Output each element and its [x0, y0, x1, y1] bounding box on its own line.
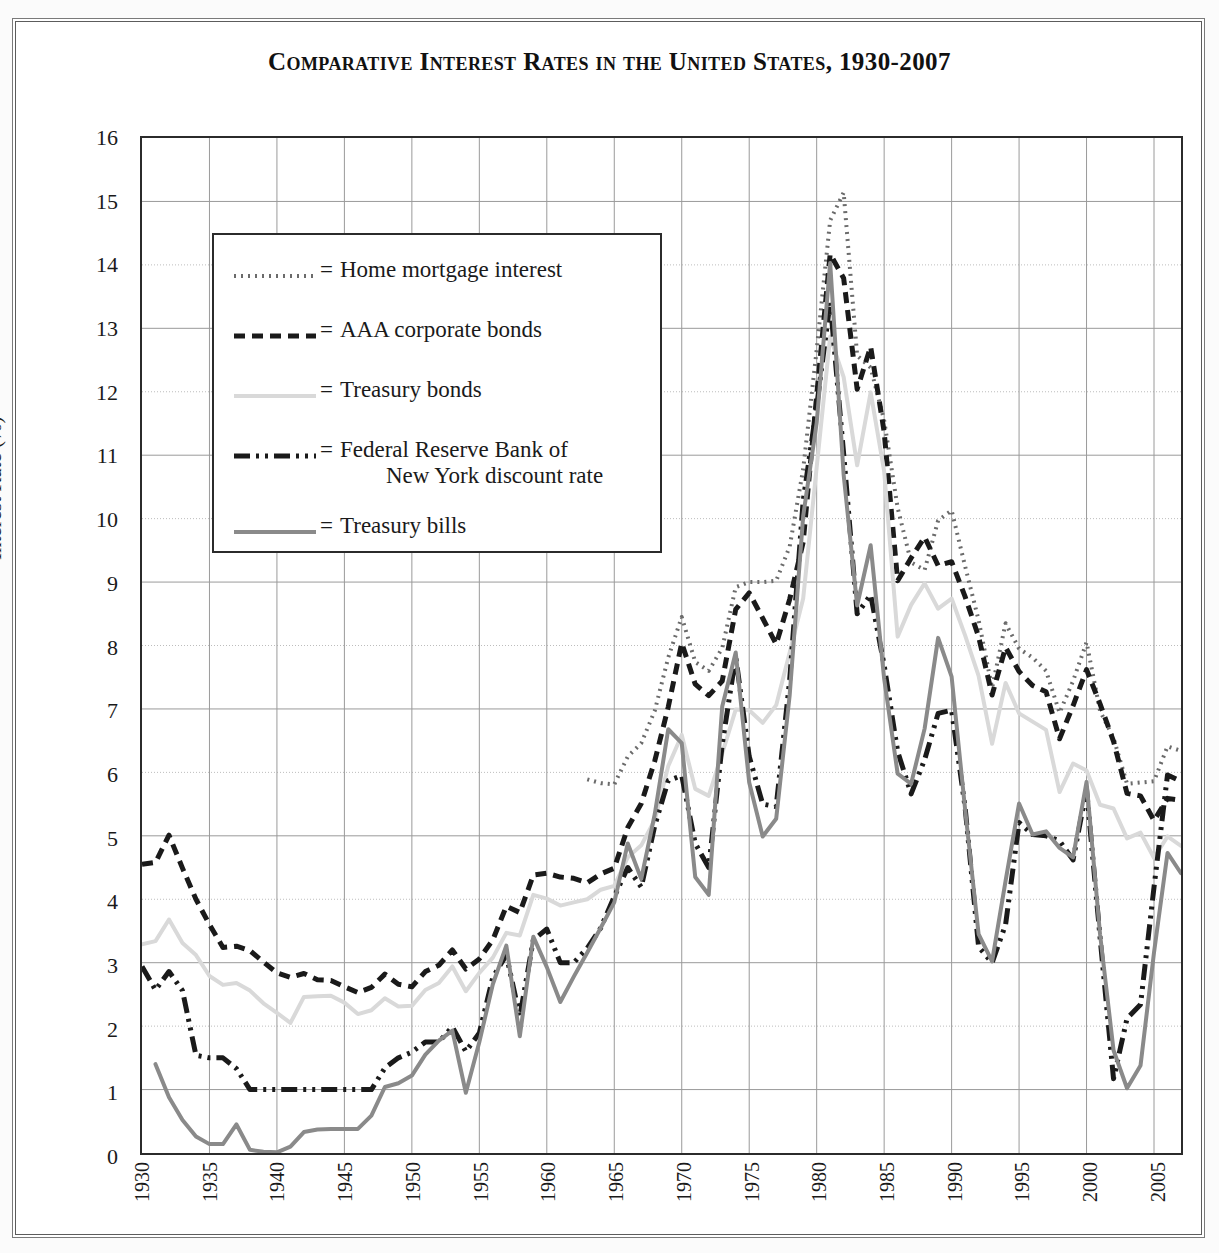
y-tick-label: 11	[97, 445, 118, 467]
legend-label: AAA corporate bonds	[340, 317, 542, 343]
chart-page: Comparative Interest Rates in the United…	[0, 0, 1219, 1253]
legend-label: Treasury bills	[340, 513, 466, 539]
y-tick-label: 13	[96, 318, 118, 340]
legend-label: Home mortgage interest	[340, 257, 562, 283]
x-tick-label: 1950	[403, 1162, 423, 1202]
x-tick-label: 1935	[200, 1162, 220, 1202]
legend-swatch-icon	[232, 266, 318, 286]
x-tick-label: 1975	[742, 1162, 762, 1202]
legend-item-1[interactable]: =AAA corporate bonds	[214, 317, 660, 346]
chart-title: Comparative Interest Rates in the United…	[0, 48, 1219, 76]
legend-equals-sign: =	[320, 513, 333, 539]
legend-swatch-icon	[232, 386, 318, 406]
y-tick-label: 8	[107, 637, 118, 659]
y-tick-label: 7	[107, 700, 118, 722]
legend-swatch-icon	[232, 522, 318, 542]
y-tick-label: 16	[96, 127, 118, 149]
x-axis-tick-labels: 1930193519401945195019551960196519701975…	[140, 1162, 1183, 1252]
legend-label: Treasury bonds	[340, 377, 482, 403]
legend-swatch-icon	[232, 326, 318, 346]
x-tick-label: 1985	[877, 1162, 897, 1202]
y-tick-label: 0	[107, 1146, 118, 1168]
legend-item-4[interactable]: =Treasury bills	[214, 513, 660, 542]
legend-label: Federal Reserve Bank ofNew York discount…	[340, 437, 603, 490]
legend-item-2[interactable]: =Treasury bonds	[214, 377, 660, 406]
y-tick-label: 9	[107, 573, 118, 595]
x-tick-label: 1940	[267, 1162, 287, 1202]
y-axis-tick-labels: 012345678910111213141516	[0, 136, 132, 1155]
y-tick-label: 12	[96, 382, 118, 404]
y-tick-label: 2	[107, 1019, 118, 1041]
x-tick-label: 1960	[538, 1162, 558, 1202]
x-tick-label: 2005	[1148, 1162, 1168, 1202]
y-tick-label: 15	[96, 191, 118, 213]
legend-swatch-icon	[232, 446, 318, 466]
y-tick-label: 3	[107, 955, 118, 977]
legend-item-3[interactable]: =Federal Reserve Bank ofNew York discoun…	[214, 437, 660, 490]
y-tick-label: 10	[96, 509, 118, 531]
chart-legend: =Home mortgage interest=AAA corporate bo…	[212, 233, 662, 553]
x-tick-label: 1970	[674, 1162, 694, 1202]
y-tick-label: 1	[107, 1082, 118, 1104]
x-tick-label: 1980	[809, 1162, 829, 1202]
x-tick-label: 1955	[471, 1162, 491, 1202]
legend-equals-sign: =	[320, 377, 333, 403]
x-tick-label: 2000	[1080, 1162, 1100, 1202]
y-tick-label: 4	[107, 891, 118, 913]
legend-equals-sign: =	[320, 437, 333, 463]
y-tick-label: 6	[107, 764, 118, 786]
x-tick-label: 1945	[335, 1162, 355, 1202]
x-tick-label: 1965	[606, 1162, 626, 1202]
legend-item-0[interactable]: =Home mortgage interest	[214, 257, 660, 286]
x-tick-label: 1990	[945, 1162, 965, 1202]
legend-equals-sign: =	[320, 317, 333, 343]
y-tick-label: 5	[107, 828, 118, 850]
x-tick-label: 1995	[1012, 1162, 1032, 1202]
y-tick-label: 14	[96, 254, 118, 276]
legend-equals-sign: =	[320, 257, 333, 283]
x-tick-label: 1930	[132, 1162, 152, 1202]
y-axis-title: Interest Rate (%)	[0, 260, 7, 560]
